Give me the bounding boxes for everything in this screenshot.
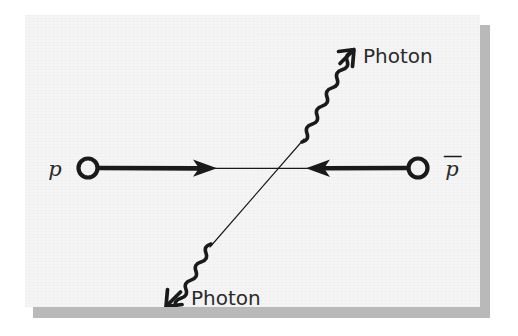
proton-circle-marker (79, 159, 98, 178)
antiproton-label: p (445, 157, 458, 181)
photon-upper-wave (302, 50, 354, 143)
proton-label: p (48, 157, 61, 181)
antiproton-beam (306, 159, 428, 178)
photon-lower-label: Photon (191, 286, 261, 307)
photon-upper-squiggle (302, 52, 352, 142)
antiproton-label-group: p (445, 157, 462, 182)
figure-root: p p Photon Photon (0, 0, 518, 336)
vertex-thin-lines (210, 139, 321, 247)
proton-beam (79, 159, 218, 178)
antiproton-circle-marker (409, 159, 428, 178)
photon-upper-label: Photon (363, 44, 433, 68)
diagram-panel: p p Photon Photon (25, 15, 480, 307)
diagonal-thin-line (210, 139, 304, 247)
diagram-canvas: p p Photon Photon (25, 15, 480, 307)
